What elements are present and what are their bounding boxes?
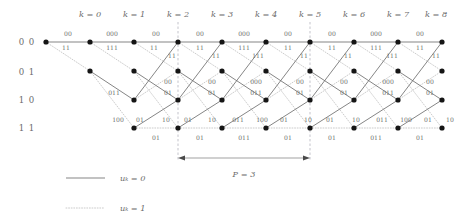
edge-label-below-bottom: 01 bbox=[152, 134, 160, 141]
edge-label-below-bottom: 011 bbox=[238, 134, 250, 141]
k-header-1: k = 1 bbox=[123, 9, 145, 19]
state-label-01: 0 1 bbox=[19, 67, 35, 77]
edge-label-u1: 11 bbox=[416, 44, 424, 51]
edge-label-mid-upper: 00 bbox=[296, 78, 304, 85]
edge-label-rising: 11 bbox=[300, 52, 308, 59]
node-state-11 bbox=[439, 125, 444, 130]
edge-label-bottom: 011 bbox=[376, 116, 388, 123]
k-header-7: k = 7 bbox=[387, 9, 410, 19]
period-label: P = 3 bbox=[232, 169, 256, 179]
node-state-01 bbox=[263, 68, 268, 73]
k-header-5: k = 5 bbox=[299, 9, 321, 19]
edge-label-group-top: 00 000 00 00 000 00 00 000 00 bbox=[64, 30, 424, 37]
edge-label-mid-upper: 000 bbox=[250, 78, 262, 85]
node-state-01 bbox=[131, 68, 136, 73]
edge-label-mid-lower: 01 bbox=[340, 89, 348, 96]
period-annotation: P = 3 bbox=[178, 156, 310, 179]
edge-label-top: 00 bbox=[196, 30, 204, 37]
node-state-10 bbox=[307, 97, 312, 102]
edge-label-mid-lower: 011 bbox=[382, 89, 394, 96]
edge-u0-11-10 bbox=[354, 100, 398, 128]
edge-label-bottom: 01 bbox=[280, 116, 288, 123]
edge-label-mid-lower: 01 bbox=[426, 89, 434, 96]
edge-label-bottom: 100 bbox=[112, 116, 124, 123]
node-state-01 bbox=[87, 68, 92, 73]
edge-label-group-upper-diag: 11 111 11 11 111 11 11 111 11 bbox=[62, 44, 424, 51]
edge-label-bottom: 10 bbox=[304, 116, 312, 123]
edge-label-bottom: 01 bbox=[326, 116, 334, 123]
k-header-row: k = 0 k = 1 k = 2 k = 3 k = 4 k = 5 k = … bbox=[79, 9, 447, 19]
node-state-10 bbox=[131, 97, 136, 102]
node-state-01 bbox=[439, 68, 444, 73]
edge-label-mid-lower: 011 bbox=[250, 89, 262, 96]
edge-label-bottom: 10 bbox=[208, 116, 216, 123]
state-label-00: 0 0 bbox=[19, 37, 35, 47]
period-arrow-head-right bbox=[303, 156, 310, 161]
edge-label-below-bottom: 01 bbox=[284, 134, 292, 141]
edge-u0-11-10 bbox=[134, 100, 178, 128]
edge-u0-11-10 bbox=[266, 100, 310, 128]
edge-label-bottom: 01 bbox=[424, 116, 432, 123]
edge-label-below-bottom: 01 bbox=[328, 134, 336, 141]
node-state-11 bbox=[175, 125, 180, 130]
node-state-10 bbox=[439, 97, 444, 102]
node-state-11 bbox=[351, 125, 356, 130]
edge-u0-11-10 bbox=[178, 100, 222, 128]
figure-canvas: k = 0 k = 1 k = 2 k = 3 k = 4 k = 5 k = … bbox=[0, 0, 457, 222]
edge-label-u1: 11 bbox=[284, 44, 292, 51]
node-state-10 bbox=[395, 97, 400, 102]
node-state-00 bbox=[439, 39, 444, 44]
edge-label-mid-lower: 01 bbox=[296, 89, 304, 96]
edge-label-mid-upper: 00 bbox=[164, 78, 172, 85]
node-state-01 bbox=[219, 68, 224, 73]
k-header-8: k = 8 bbox=[425, 9, 447, 19]
edge-label-group-bottom: 100 01 10 01 10 011 100 01 10 01 10 011 … bbox=[112, 116, 454, 141]
state-label-10: 1 0 bbox=[19, 95, 35, 105]
edge-label-bottom: 10 bbox=[446, 116, 454, 123]
edge-label-mid-upper: 000 bbox=[382, 78, 394, 85]
edge-label-u1: 11 bbox=[62, 44, 70, 51]
legend: uₖ = 0 uₖ = 1 bbox=[66, 173, 146, 213]
node-state-01 bbox=[175, 68, 180, 73]
k-header-6: k = 6 bbox=[343, 9, 365, 19]
edge-label-mid-upper: 00 bbox=[208, 78, 216, 85]
state-label-11: 1 1 bbox=[19, 123, 35, 133]
node-state-00 bbox=[87, 39, 92, 44]
node-state-00 bbox=[263, 39, 268, 44]
edge-label-bottom: 100 bbox=[400, 116, 412, 123]
node-state-00 bbox=[307, 39, 312, 44]
edge-label-bottom: 10 bbox=[352, 116, 360, 123]
edge-label-rising: 111 bbox=[252, 52, 264, 59]
legend-label-u0: uₖ = 0 bbox=[120, 173, 146, 183]
node-state-01 bbox=[307, 68, 312, 73]
edge-label-bottom: 01 bbox=[184, 116, 192, 123]
k-header-0: k = 0 bbox=[79, 9, 101, 19]
node-state-10 bbox=[263, 97, 268, 102]
edge-label-rising: 11 bbox=[212, 52, 220, 59]
node-state-11 bbox=[307, 125, 312, 130]
edge-label-top: 00 bbox=[416, 30, 424, 37]
edge-label-top: 00 bbox=[328, 30, 336, 37]
edge-u0-11-10 bbox=[310, 100, 354, 128]
edge-label-u1: 11 bbox=[150, 44, 158, 51]
node-state-00 bbox=[351, 39, 356, 44]
edge-label-bottom: 10 bbox=[162, 116, 170, 123]
edge-label-mid-upper: 00 bbox=[426, 78, 434, 85]
edge-label-top: 00 bbox=[152, 30, 160, 37]
edge-label-below-bottom: 011 bbox=[370, 134, 382, 141]
node-state-00 bbox=[395, 39, 400, 44]
edge-label-mid-lower: 01 bbox=[208, 89, 216, 96]
node-state-10 bbox=[175, 97, 180, 102]
edge-label-mid-upper: 00 bbox=[340, 78, 348, 85]
node-state-00 bbox=[175, 39, 180, 44]
edge-label-rising: 11 bbox=[432, 52, 440, 59]
edge-label-below-bottom: 01 bbox=[416, 134, 424, 141]
edge-label-top: 000 bbox=[238, 30, 250, 37]
edge-u0-11-10 bbox=[222, 100, 266, 128]
edge-label-u1: 111 bbox=[106, 44, 118, 51]
node-state-10 bbox=[351, 97, 356, 102]
edge-label-rising: 111 bbox=[386, 52, 398, 59]
edge-label-mid-lower: 011 bbox=[108, 89, 120, 96]
edge-label-top: 00 bbox=[64, 30, 72, 37]
edge-label-rising: 11 bbox=[168, 52, 176, 59]
